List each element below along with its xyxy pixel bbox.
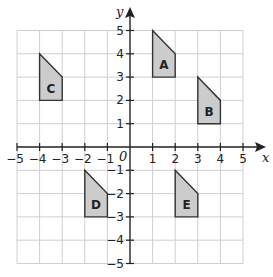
- y-tick-label: −5: [106, 257, 124, 271]
- coordinate-grid: ABCDE x y 0 −5−4−3−2−11234554321−1−2−3−4…: [0, 0, 273, 277]
- y-tick-label: 4: [116, 47, 124, 61]
- x-tick-label: 3: [194, 152, 202, 166]
- x-axis-label: x: [262, 150, 270, 165]
- y-tick-label: −1: [106, 163, 124, 177]
- y-tick-label: 5: [116, 24, 124, 38]
- y-tick-label: 2: [116, 93, 124, 107]
- shape-d: D: [85, 170, 108, 217]
- shape-label: A: [159, 58, 169, 72]
- shape-label: D: [91, 198, 101, 212]
- y-tick-label: −2: [106, 187, 124, 201]
- x-tick-label: 1: [149, 152, 157, 166]
- y-tick-label: −4: [106, 233, 124, 247]
- shape-e: E: [175, 170, 198, 217]
- y-tick-label: 3: [116, 70, 124, 84]
- x-tick-label: −2: [74, 152, 92, 166]
- axes: x y 0: [17, 4, 270, 264]
- x-tick-label: 2: [171, 152, 179, 166]
- shape-label: C: [46, 82, 55, 96]
- x-tick-label: −5: [6, 152, 24, 166]
- origin-label: 0: [119, 149, 127, 164]
- y-tick-label: 1: [116, 117, 124, 131]
- shape-label: E: [182, 198, 190, 212]
- shape-a: A: [153, 31, 176, 78]
- x-tick-label: 4: [217, 152, 225, 166]
- y-axis-label: y: [115, 4, 124, 19]
- x-tick-label: −3: [51, 152, 69, 166]
- x-tick-label: −4: [29, 152, 47, 166]
- shape-b: B: [198, 77, 221, 124]
- shape-c: C: [40, 54, 63, 101]
- shape-label: B: [205, 105, 214, 119]
- y-tick-label: −3: [106, 210, 124, 224]
- x-tick-label: 5: [239, 152, 247, 166]
